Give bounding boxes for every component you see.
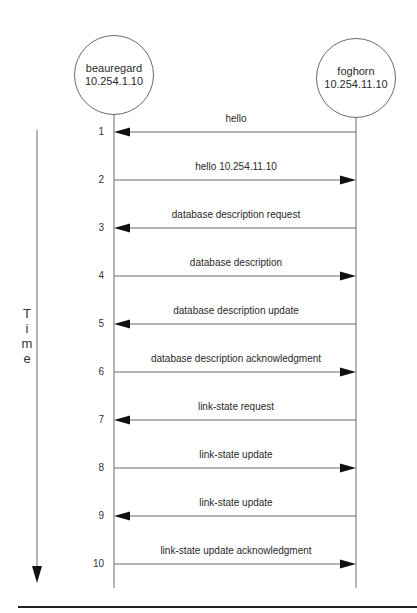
step-number: 2: [84, 174, 104, 186]
step-number: 3: [84, 222, 104, 234]
time-axis-arrowhead-icon: [32, 566, 42, 583]
message-arrow-6: [114, 368, 356, 377]
time-label-char: m: [20, 336, 34, 351]
message-label: link-state request: [198, 401, 274, 413]
message-label: link-state update acknowledgment: [160, 545, 311, 557]
step-number: 1: [84, 126, 104, 138]
arrowhead-right-icon: [340, 272, 356, 281]
time-axis-label: T i m e: [20, 306, 34, 366]
arrowhead-right-icon: [340, 176, 356, 185]
message-arrow-1: [114, 128, 356, 137]
arrowhead-left-icon: [114, 416, 130, 425]
message-arrow-8: [114, 464, 356, 473]
step-number: 7: [84, 414, 104, 426]
message-label: database description: [190, 257, 282, 269]
node-beauregard: beauregard 10.254.1.10: [74, 35, 154, 115]
message-arrow-2: [114, 176, 356, 185]
step-number: 8: [84, 462, 104, 474]
step-number: 4: [84, 270, 104, 282]
time-label-char: i: [20, 321, 34, 336]
step-number: 5: [84, 318, 104, 330]
node-ip: 10.254.1.10: [85, 75, 143, 88]
arrowhead-left-icon: [114, 320, 130, 329]
arrowhead-left-icon: [114, 512, 130, 521]
step-number: 9: [84, 510, 104, 522]
message-label: database description acknowledgment: [151, 353, 321, 365]
step-number: 6: [84, 366, 104, 378]
message-label: link-state update: [199, 449, 272, 461]
node-ip: 10.254.11.10: [324, 78, 387, 91]
arrowhead-left-icon: [114, 224, 130, 233]
arrowhead-right-icon: [340, 560, 356, 569]
arrowhead-right-icon: [340, 368, 356, 377]
message-label: database description update: [173, 305, 299, 317]
time-label-char: e: [20, 351, 34, 366]
node-name: foghorn: [337, 65, 374, 78]
node-foghorn: foghorn 10.254.11.10: [316, 38, 396, 118]
message-arrow-9: [114, 512, 356, 521]
message-label: hello: [225, 113, 246, 125]
step-number: 10: [84, 558, 104, 570]
message-label: link-state update: [199, 497, 272, 509]
message-arrow-4: [114, 272, 356, 281]
message-label: hello 10.254.11.10: [195, 161, 277, 173]
message-label: database description request: [172, 209, 300, 221]
node-name: beauregard: [86, 62, 142, 75]
arrowhead-left-icon: [114, 128, 130, 137]
time-label-char: T: [20, 306, 34, 321]
message-arrow-7: [114, 416, 356, 425]
message-arrow-5: [114, 320, 356, 329]
message-arrow-3: [114, 224, 356, 233]
arrowhead-right-icon: [340, 464, 356, 473]
message-arrow-10: [114, 560, 356, 569]
